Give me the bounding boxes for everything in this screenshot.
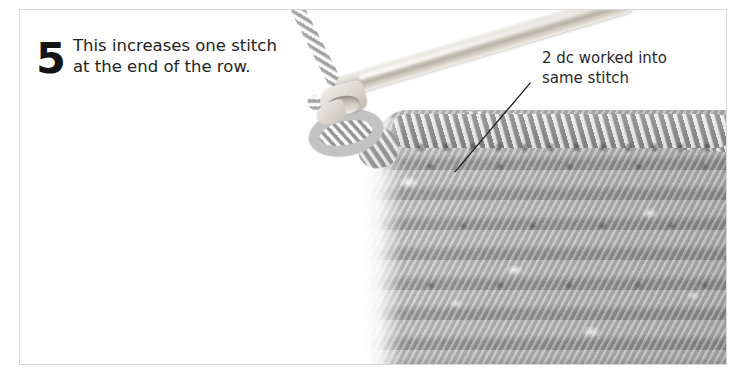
step-text-line-2: at the end of the row.: [73, 56, 277, 77]
callout-line-2: same stitch: [542, 68, 667, 88]
step-instruction-text: This increases one stitch at the end of …: [73, 35, 277, 77]
illustration-frame: 5 This increases one stitch at the end o…: [19, 9, 727, 365]
callout-line-1: 2 dc worked into: [542, 48, 667, 68]
step-block: 5 This increases one stitch at the end o…: [36, 35, 277, 80]
fabric-top-chain-row: [392, 114, 726, 148]
step-number: 5: [36, 37, 65, 80]
step-text-line-1: This increases one stitch: [73, 35, 277, 56]
callout-label: 2 dc worked into same stitch: [542, 48, 667, 88]
screenshot-root: 5 This increases one stitch at the end o…: [0, 0, 744, 388]
